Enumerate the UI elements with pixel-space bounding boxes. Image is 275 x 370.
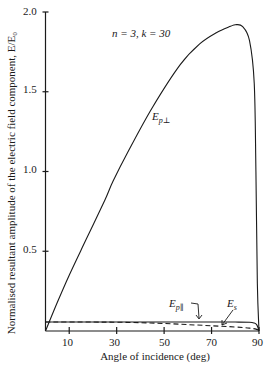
series-line-0: [46, 25, 260, 331]
parameter-annotation: n = 3, k = 30: [112, 27, 170, 39]
y-tick-label: 1.0: [23, 163, 37, 175]
x-tick-label: 50: [159, 336, 170, 348]
y-tick-label: 1.5: [23, 83, 37, 95]
axes: [43, 12, 260, 334]
arrow-e-s: [222, 310, 233, 325]
x-axis-label: Angle of incidence (deg): [70, 350, 240, 362]
curve-label-e-s: Es: [227, 297, 237, 312]
y-axis-label: Normalised resultant amplitude of the el…: [5, 1, 19, 365]
x-tick-label: 30: [109, 336, 120, 348]
x-tick-label: 70: [206, 336, 217, 348]
curve-label-e-p-parallel: Ep∥: [169, 297, 183, 312]
arrow-e-p-parallel: [191, 303, 199, 318]
curve-label-e-p-perp: Ep⊥: [152, 110, 170, 125]
y-tick-label: 0.5: [23, 243, 37, 255]
x-tick-label: 10: [62, 336, 73, 348]
y-tick-label: 2.0: [23, 5, 37, 17]
line-chart: [0, 0, 275, 370]
x-tick-label: 90: [252, 336, 263, 348]
series-group: [46, 25, 260, 331]
